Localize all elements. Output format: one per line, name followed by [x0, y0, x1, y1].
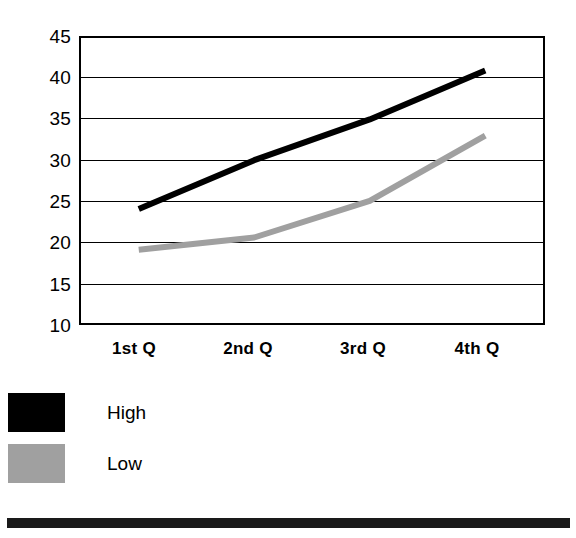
gridline	[81, 201, 543, 202]
y-axis-tick-label: 35	[11, 109, 71, 128]
plot-area	[79, 36, 545, 325]
y-axis-tick-label: 20	[11, 233, 71, 252]
legend-item-low: Low	[8, 442, 308, 493]
y-axis-tick-label: 10	[11, 316, 71, 335]
legend-label-low: Low	[107, 453, 142, 475]
y-axis-tick-label: 30	[11, 151, 71, 170]
y-axis-tick-label: 15	[11, 275, 71, 294]
legend-swatch-low	[8, 444, 65, 483]
legend-swatch-high	[8, 393, 65, 432]
x-axis-tick-label: 2nd Q	[188, 339, 308, 359]
gridline	[81, 242, 543, 243]
chart-legend: High Low	[8, 391, 308, 493]
x-axis-tick-label: 1st Q	[74, 339, 194, 359]
y-axis-tick-label: 25	[11, 192, 71, 211]
y-axis-tick-label: 45	[11, 27, 71, 46]
y-axis: 45 40 35 30 25 20 15 10	[9, 36, 71, 325]
gridline	[81, 160, 543, 161]
gridline	[81, 284, 543, 285]
gridline	[81, 77, 543, 78]
x-axis-tick-label: 3rd Q	[303, 339, 423, 359]
legend-item-high: High	[8, 391, 308, 442]
x-axis: 1st Q 2nd Q 3rd Q 4th Q	[79, 339, 545, 363]
line-chart-figure: 45 40 35 30 25 20 15 10 1st Q 2nd Q 3rd …	[0, 0, 576, 538]
y-axis-tick-label: 40	[11, 68, 71, 87]
bottom-rule	[7, 518, 570, 528]
x-axis-tick-label: 4th Q	[417, 339, 537, 359]
legend-label-high: High	[107, 402, 146, 424]
gridline	[81, 118, 543, 119]
